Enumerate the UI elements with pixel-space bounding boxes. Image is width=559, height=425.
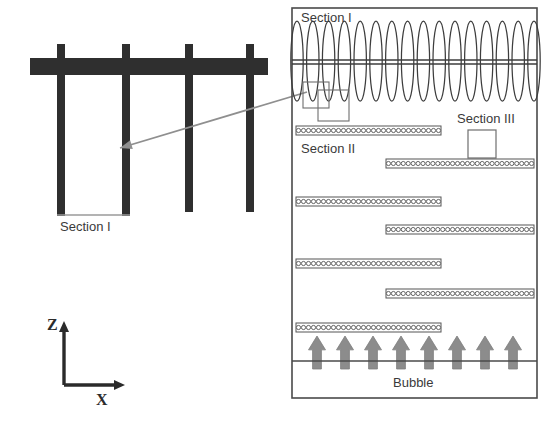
bead (321, 325, 325, 329)
bead (416, 199, 420, 203)
bead (436, 161, 440, 165)
bead-row-3 (296, 197, 441, 206)
bead (475, 161, 479, 165)
bead (386, 291, 390, 295)
coil-loop-12 (465, 21, 477, 101)
bead (436, 325, 440, 329)
bead (515, 227, 519, 231)
bubble-arrow-4 (393, 336, 410, 369)
bead (396, 128, 400, 132)
bead (401, 261, 405, 265)
bead (386, 161, 390, 165)
bead (406, 161, 410, 165)
bead (346, 199, 350, 203)
bead (490, 227, 494, 231)
bead (341, 325, 345, 329)
bead (401, 161, 405, 165)
bead (341, 128, 345, 132)
bead (336, 128, 340, 132)
bead (455, 161, 459, 165)
bead (421, 291, 425, 295)
bead (411, 227, 415, 231)
bead (490, 291, 494, 295)
bead (401, 128, 405, 132)
bead (480, 161, 484, 165)
bead (485, 227, 489, 231)
bead (529, 161, 533, 165)
bead (411, 128, 415, 132)
label-axis-x: X (96, 392, 108, 408)
bead (376, 325, 380, 329)
bead (421, 227, 425, 231)
bead (396, 199, 400, 203)
bead (455, 291, 459, 295)
bead (416, 325, 420, 329)
bead (366, 261, 370, 265)
left-panel-group (30, 44, 307, 216)
bead (460, 161, 464, 165)
bead (480, 227, 484, 231)
bead (431, 128, 435, 132)
bead (326, 325, 330, 329)
bead (426, 261, 430, 265)
bead (426, 227, 430, 231)
bead (411, 291, 415, 295)
bead (431, 325, 435, 329)
bead (331, 128, 335, 132)
bead (431, 161, 435, 165)
bead (470, 227, 474, 231)
bead (455, 227, 459, 231)
axis-x-arrowhead (114, 380, 125, 390)
tube-post-top-4 (246, 44, 254, 58)
bead (500, 161, 504, 165)
bead-row-2 (386, 159, 534, 168)
bead (331, 199, 335, 203)
bead (371, 261, 375, 265)
bead (421, 161, 425, 165)
bead (460, 291, 464, 295)
bead (346, 261, 350, 265)
bead (391, 128, 395, 132)
bead (451, 161, 455, 165)
bead-row-6 (386, 289, 534, 298)
bead (411, 261, 415, 265)
bead (351, 128, 355, 132)
bead (371, 128, 375, 132)
bead (381, 261, 385, 265)
bead (520, 161, 524, 165)
header-bar (30, 58, 268, 75)
bead (485, 291, 489, 295)
bead (406, 325, 410, 329)
bead (376, 261, 380, 265)
bead (436, 199, 440, 203)
bead (426, 161, 430, 165)
bead (465, 227, 469, 231)
bead (510, 291, 514, 295)
bead-row-4 (386, 225, 534, 234)
bead (361, 261, 365, 265)
bead (406, 261, 410, 265)
bead (391, 161, 395, 165)
bead (441, 161, 445, 165)
coil-loop-16 (528, 21, 540, 101)
bead (421, 261, 425, 265)
bead (311, 199, 315, 203)
bead (451, 227, 455, 231)
label-section-one-right: Section I (301, 11, 352, 24)
bead (520, 227, 524, 231)
bead (480, 291, 484, 295)
bead (441, 227, 445, 231)
coil-loop-11 (449, 21, 461, 101)
bead-row-1 (296, 126, 441, 135)
bead (431, 291, 435, 295)
bead (386, 199, 390, 203)
bead (411, 325, 415, 329)
bead (381, 128, 385, 132)
coil-loop-6 (370, 21, 382, 101)
coil-loop-14 (496, 21, 508, 101)
bead (441, 291, 445, 295)
bead (311, 325, 315, 329)
right-panel-group (291, 8, 540, 398)
bead (396, 227, 400, 231)
bead (391, 227, 395, 231)
